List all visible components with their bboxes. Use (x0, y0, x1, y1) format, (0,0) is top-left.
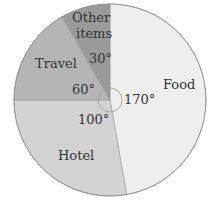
label-other-angle: 30° (89, 51, 112, 66)
label-hotel: Hotel (58, 148, 94, 163)
label-travel: Travel (35, 56, 77, 71)
label-food: Food (163, 77, 195, 92)
pie-chart: Food 170° Hotel 100° Travel 60° Other it… (0, 0, 214, 205)
label-food-angle: 170° (124, 92, 155, 107)
label-other-line1: Other (72, 10, 111, 25)
label-hotel-angle: 100° (78, 112, 109, 127)
label-other-line2: items (76, 26, 112, 41)
label-travel-angle: 60° (72, 82, 95, 97)
